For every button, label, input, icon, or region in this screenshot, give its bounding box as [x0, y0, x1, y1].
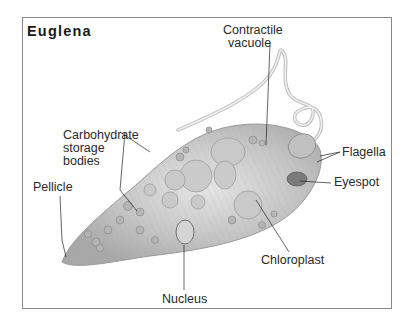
euglena-illustration [0, 0, 410, 328]
label-chloroplast: Chloroplast [261, 254, 324, 267]
diagram-title: Euglena [27, 23, 92, 39]
eyespot-organelle [287, 172, 307, 186]
label-line: vacuole [223, 37, 283, 50]
label-pellicle: Pellicle [33, 181, 73, 194]
label-carbohydrate-storage-bodies: Carbohydrate storage bodies [63, 129, 139, 168]
label-line: bodies [63, 155, 139, 168]
nucleus-organelle [176, 220, 194, 244]
label-eyespot: Eyespot [334, 176, 379, 189]
label-contractile-vacuole: Contractile vacuole [223, 24, 283, 50]
label-flagella: Flagella [342, 146, 386, 159]
label-nucleus: Nucleus [162, 293, 207, 306]
